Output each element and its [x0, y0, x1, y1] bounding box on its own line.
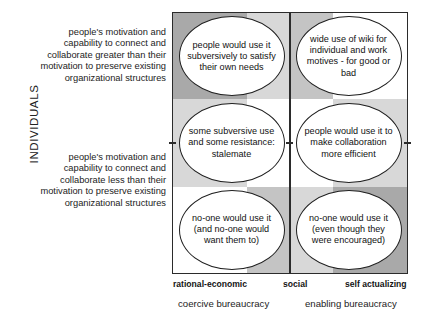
bubble-text-top-left: people would use it subversively to sati…	[180, 40, 284, 74]
side-note-lower: people's motivation and capability to co…	[34, 152, 166, 209]
bubble-text-bottom-right: no-one would use it (even though they we…	[297, 213, 401, 247]
bubble-text-middle-right: people would use it to make collaboratio…	[297, 126, 401, 160]
bubble-bottom-left: no-one would use it (and no-one would wa…	[179, 190, 285, 270]
bubble-top-left: people would use it subversively to sati…	[179, 16, 285, 96]
bubble-text-middle-left: some subversive use and some resistance:…	[180, 126, 284, 160]
cell-middle-left: some subversive use and some resistance:…	[173, 100, 290, 187]
x-group-label-coercive-bureaucracy: coercive bureaucracy	[178, 298, 269, 309]
matrix-grid: people would use it subversively to sati…	[172, 12, 408, 274]
bubble-text-bottom-left: no-one would use it (and no-one would wa…	[180, 213, 284, 247]
bubble-middle-left: some subversive use and some resistance:…	[179, 103, 285, 183]
bubble-text-top-right: wide use of wiki for individual and work…	[297, 34, 401, 79]
side-note-upper: people's motivation and capability to co…	[34, 27, 166, 84]
cell-middle-right: people would use it to make collaboratio…	[290, 100, 407, 187]
bubble-bottom-right: no-one would use it (even though they we…	[296, 190, 402, 270]
bubble-top-right: wide use of wiki for individual and work…	[296, 16, 402, 96]
cell-top-left: people would use it subversively to sati…	[173, 13, 290, 100]
cell-bottom-right: no-one would use it (even though they we…	[290, 186, 407, 273]
x-axis-label-social: social	[283, 279, 307, 289]
bubble-middle-right: people would use it to make collaboratio…	[296, 103, 402, 183]
x-group-label-enabling-bureaucracy: enabling bureaucracy	[305, 298, 397, 309]
cell-top-right: wide use of wiki for individual and work…	[290, 13, 407, 100]
matrix-cells: people would use it subversively to sati…	[173, 13, 407, 273]
cell-bottom-left: no-one would use it (and no-one would wa…	[173, 186, 290, 273]
x-axis-label-self-actualizing: self actualizing	[345, 279, 407, 289]
x-axis-label-rational-economic: rational-economic	[173, 279, 247, 289]
